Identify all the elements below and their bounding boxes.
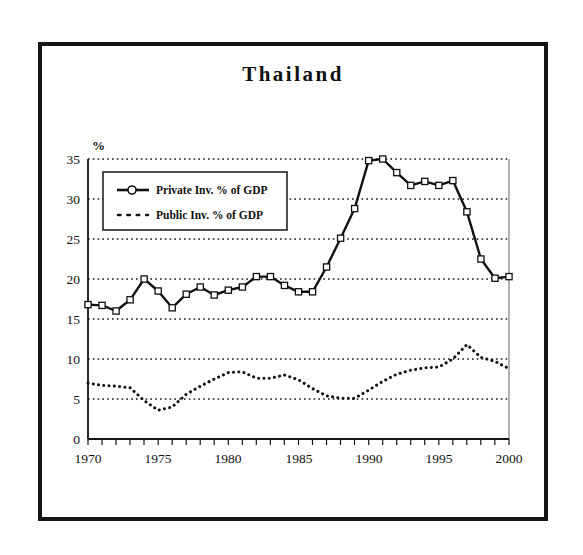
x-axis-tick-labels: 1970 1975 1980 1985 1990 1995 2000 <box>75 451 523 466</box>
data-point-marker <box>281 282 287 288</box>
series-public-investment <box>88 345 509 411</box>
data-point-marker <box>267 274 273 280</box>
chart-legend: Private Inv. % of GDP Public Inv. % of G… <box>103 172 287 230</box>
line-chart-svg: 35 30 25 20 15 10 5 0 % 1970 1975 1980 1… <box>42 46 552 525</box>
data-point-marker <box>436 182 442 188</box>
data-point-marker <box>225 287 231 293</box>
figure-frame: Thailand <box>38 42 548 521</box>
data-point-marker <box>155 288 161 294</box>
y-axis-unit-label: % <box>92 138 105 153</box>
x-tick-label: 1990 <box>356 451 383 466</box>
series-line <box>88 345 509 411</box>
data-point-marker <box>295 289 301 295</box>
data-point-marker <box>141 276 147 282</box>
data-point-marker <box>506 274 512 280</box>
data-point-marker <box>253 274 259 280</box>
data-point-marker <box>464 209 470 215</box>
data-point-marker <box>408 182 414 188</box>
x-tick-label: 2000 <box>496 451 523 466</box>
x-tick-label: 1995 <box>426 451 453 466</box>
y-tick-label: 25 <box>67 232 81 247</box>
legend-box <box>103 172 287 230</box>
chart-plot-area: 35 30 25 20 15 10 5 0 % 1970 1975 1980 1… <box>42 46 552 525</box>
data-point-marker <box>85 302 91 308</box>
data-point-marker <box>380 156 386 162</box>
y-tick-label: 35 <box>67 152 81 167</box>
data-point-marker <box>239 284 245 290</box>
data-point-marker <box>183 291 189 297</box>
data-point-marker <box>211 292 217 298</box>
x-tick-label: 1980 <box>215 451 242 466</box>
data-point-marker <box>366 158 372 164</box>
legend-label-private: Private Inv. % of GDP <box>156 184 267 196</box>
data-point-marker <box>113 308 119 314</box>
data-point-marker <box>99 302 105 308</box>
data-point-marker <box>422 178 428 184</box>
y-tick-label: 0 <box>73 432 80 447</box>
data-point-marker <box>352 206 358 212</box>
data-point-marker <box>323 264 329 270</box>
y-tick-label: 30 <box>67 192 81 207</box>
legend-label-public: Public Inv. % of GDP <box>156 209 263 221</box>
y-axis-tick-labels: 35 30 25 20 15 10 5 0 <box>67 152 81 447</box>
y-tick-label: 20 <box>67 272 81 287</box>
data-point-marker <box>309 289 315 295</box>
data-point-marker <box>492 275 498 281</box>
x-tick-label: 1985 <box>286 451 313 466</box>
data-point-marker <box>197 284 203 290</box>
y-tick-label: 5 <box>73 392 80 407</box>
data-point-marker <box>450 178 456 184</box>
y-tick-label: 15 <box>67 312 81 327</box>
x-tick-label: 1970 <box>75 451 102 466</box>
data-point-marker <box>478 256 484 262</box>
legend-marker-private <box>128 186 136 194</box>
x-tick-label: 1975 <box>145 451 172 466</box>
data-point-marker <box>338 235 344 241</box>
data-point-marker <box>169 305 175 311</box>
y-tick-label: 10 <box>67 352 81 367</box>
data-point-marker <box>394 170 400 176</box>
data-point-marker <box>127 297 133 303</box>
